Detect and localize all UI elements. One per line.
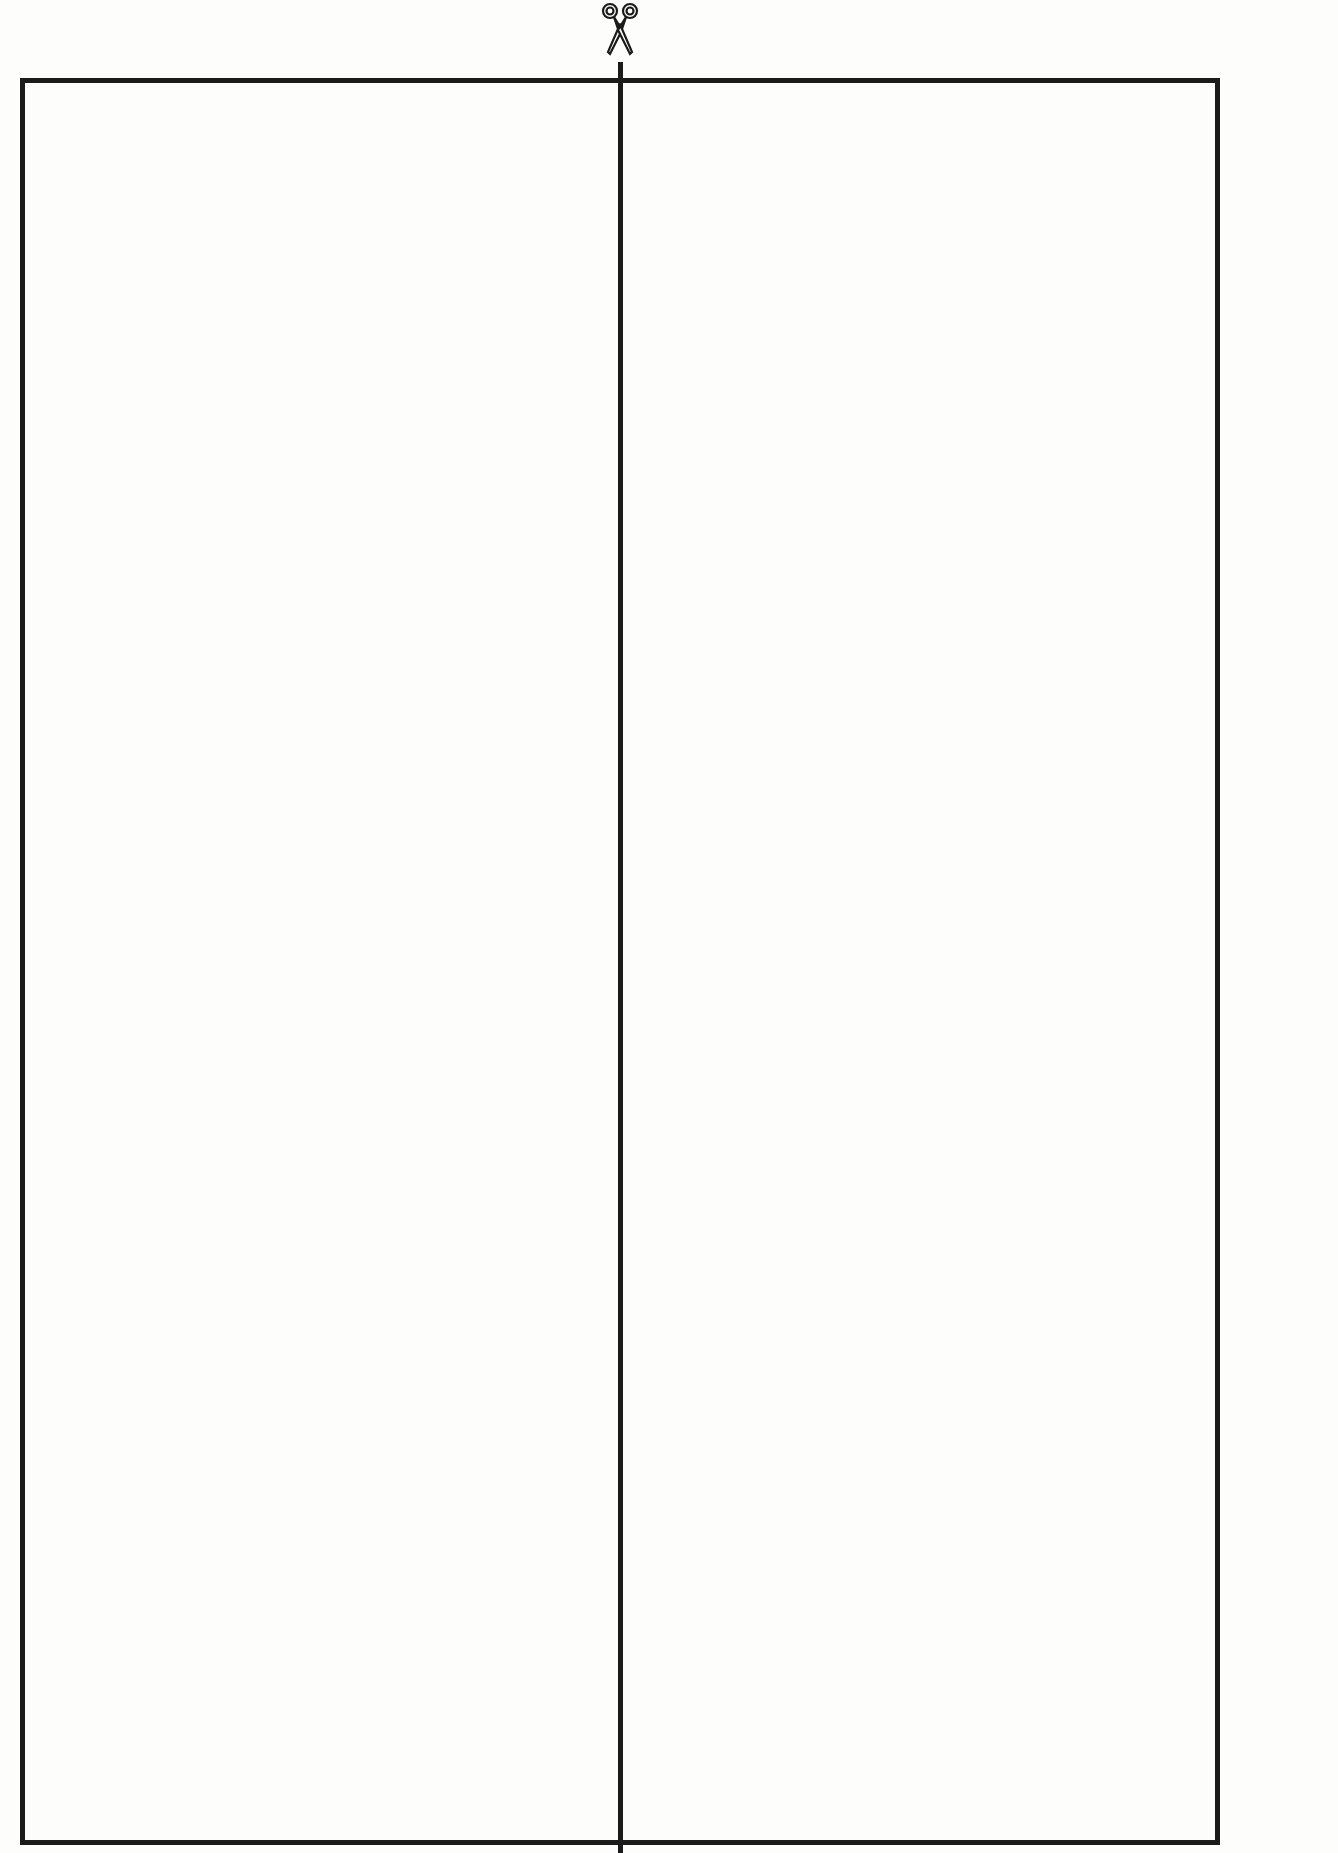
ten-frame-grid [20, 78, 1220, 1845]
scissors-icon [592, 2, 648, 58]
